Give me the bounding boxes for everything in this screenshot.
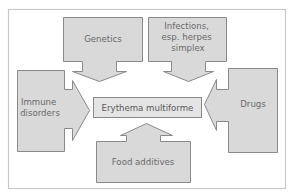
drugs-label-line: Drugs <box>240 99 266 109</box>
erythema-multiforme-diagram: Genetics Infections, esp. herpes simplex… <box>0 0 295 196</box>
infections-label-line-3: simplex <box>171 43 204 53</box>
genetics-label-line: Genetics <box>84 34 122 44</box>
center-label: Erythema multiforme <box>102 103 194 113</box>
center-condition: Erythema multiforme <box>94 98 202 118</box>
immune-label-line-2: disorders <box>20 108 60 118</box>
infections-label-line-2: esp. herpes <box>162 32 213 42</box>
food-label-line: Food additives <box>112 157 175 167</box>
infections-label-line-1: Infections, <box>164 21 209 31</box>
genetics-label: Genetics <box>84 34 122 44</box>
immune-label-line-1: Immune <box>21 97 56 107</box>
immune-label: Immune disorders <box>20 97 60 118</box>
drugs-label: Drugs <box>240 99 266 109</box>
food-label: Food additives <box>112 157 175 167</box>
